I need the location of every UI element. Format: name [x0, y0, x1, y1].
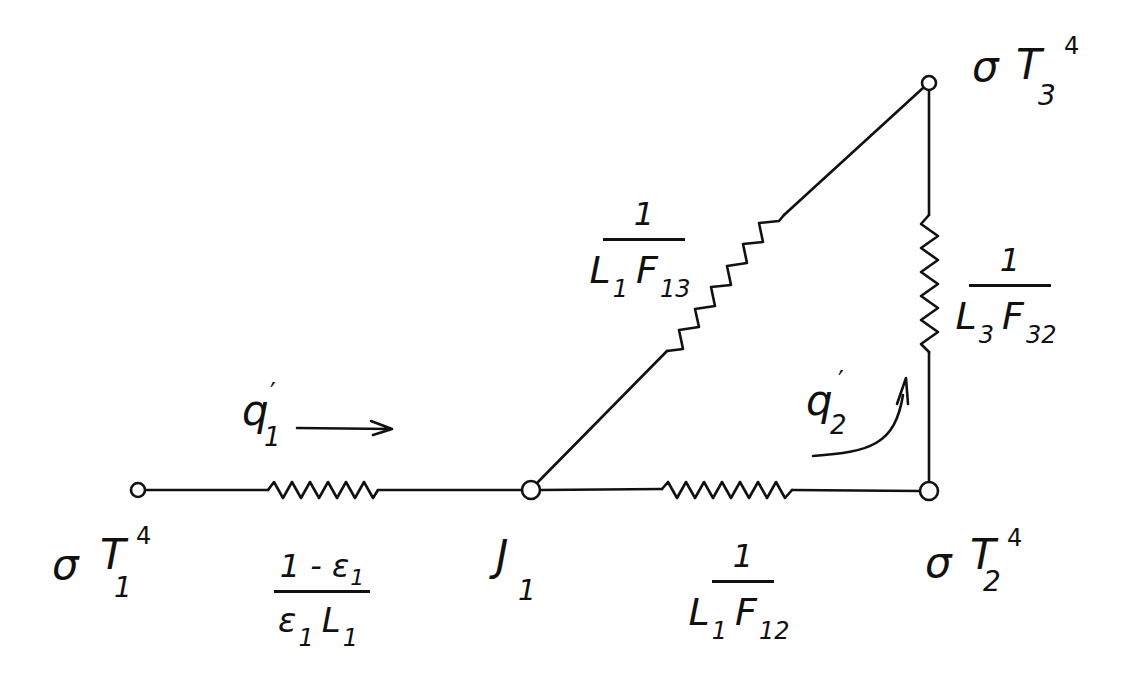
den-b-sub: 1 [343, 624, 358, 652]
den-a-sub: 1 [298, 624, 313, 652]
resistor-surface-1 [268, 482, 378, 498]
sup-eb3: 4 [1064, 34, 1079, 58]
label-eb2: σ T 4 2 [925, 534, 1045, 604]
wire-r12-to-eb2 [792, 490, 920, 491]
resistance-space-12-denominator: L1F12 [689, 583, 798, 631]
den-b: F [735, 590, 757, 634]
resistance-space-12-numerator: 1 [733, 540, 753, 580]
q1-prime: ′ [270, 378, 276, 408]
sub-eb1: 1 [114, 574, 132, 602]
wire-r13-to-eb3 [784, 88, 923, 215]
resistance-space-32: 1 L3F32 [960, 244, 1060, 335]
sigma-eb1: σ [52, 544, 79, 586]
node-j1 [522, 481, 540, 499]
resistance-space-32-numerator: 1 [1000, 244, 1020, 284]
den-a-sub: 1 [613, 275, 628, 303]
sigma-eb3: σ [972, 46, 999, 88]
resistance-surface-1-numerator: 1 - ε1 [280, 550, 365, 590]
label-heat-flow-q1: q ′ 1 [242, 390, 292, 450]
resistance-space-32-denominator: L3F32 [956, 287, 1065, 335]
den-b: L [322, 600, 341, 640]
wire-j1-to-r12 [541, 489, 662, 490]
num-sub: 1 [350, 565, 364, 590]
q2-var: q [806, 380, 833, 422]
resistance-space-13-numerator: 1 [634, 198, 654, 238]
den-a-sub: 3 [979, 321, 994, 349]
resistance-surface-1-denominator: ε1L1 [278, 593, 366, 637]
label-eb1: σ T 4 1 [52, 534, 162, 604]
q2-prime: ′ [838, 366, 844, 396]
resistance-space-13: 1 L1F13 [588, 198, 700, 289]
q1-sub: 1 [264, 422, 281, 452]
node-eb1 [131, 483, 145, 497]
label-j1: J 1 [478, 535, 558, 605]
den-b-sub: 13 [660, 275, 691, 303]
sup-eb2: 4 [1007, 526, 1022, 550]
var-eb1: T [100, 534, 126, 576]
var-j1: J [496, 535, 508, 577]
node-eb2 [920, 482, 938, 500]
den-b-sub: 32 [1026, 321, 1057, 349]
label-eb3: σ T 4 3 [972, 46, 1092, 116]
node-eb3 [922, 76, 936, 90]
den-a: L [956, 294, 977, 338]
resistor-space-32 [921, 215, 938, 352]
den-a: L [590, 248, 611, 292]
sigma-eb2: σ [925, 542, 952, 584]
num-text: 1 - ε [280, 547, 350, 585]
sub-eb3: 3 [1038, 82, 1056, 110]
den-a-sub: 1 [712, 617, 727, 645]
den-b: F [1002, 294, 1024, 338]
resistance-surface-1: 1 - ε1 ε1L1 [272, 550, 372, 637]
sub-j1: 1 [518, 577, 536, 605]
den-b: F [636, 248, 658, 292]
den-a: L [689, 590, 710, 634]
sub-eb2: 2 [983, 568, 1001, 596]
arrow-q1-icon [297, 421, 392, 435]
den-b-sub: 12 [759, 617, 790, 645]
q2-sub: 2 [830, 410, 847, 440]
label-heat-flow-q2: q ′ 2 [806, 380, 866, 440]
sup-eb1: 4 [136, 524, 151, 548]
wire-j1-to-r13 [538, 351, 667, 482]
den-a: ε [278, 600, 296, 640]
resistance-space-12: 1 L1F12 [688, 540, 798, 631]
resistance-space-13-denominator: L1F13 [590, 241, 699, 289]
resistor-space-12 [662, 482, 792, 498]
